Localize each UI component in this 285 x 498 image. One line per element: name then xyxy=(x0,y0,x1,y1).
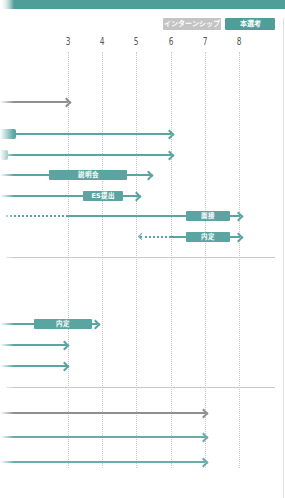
gridline-month-6 xyxy=(171,52,172,468)
legend-internship: インターンシップ xyxy=(163,18,221,30)
legend-main-selection: 本選考 xyxy=(225,18,275,30)
timeline-bar-grey xyxy=(0,412,205,414)
arrowhead-icon xyxy=(144,170,154,180)
gridline-month-3 xyxy=(68,52,69,468)
arrowhead-icon xyxy=(199,408,209,418)
arrowhead-icon xyxy=(132,191,142,201)
month-label-3: 3 xyxy=(63,35,74,48)
arrowhead-icon xyxy=(62,97,72,107)
left-edge-fade xyxy=(0,0,14,498)
gridline-month-5 xyxy=(136,52,137,468)
month-label-7: 7 xyxy=(200,35,211,48)
arrowhead-icon xyxy=(199,432,209,442)
timeline-bar-dashed xyxy=(140,236,171,238)
month-label-4: 4 xyxy=(97,35,108,48)
section-divider-2 xyxy=(6,387,275,388)
tag-es-submission: ES提出 xyxy=(83,191,123,201)
gridline-month-7 xyxy=(205,52,206,468)
right-border xyxy=(283,18,284,498)
gridline-month-8 xyxy=(239,52,240,468)
arrowhead-icon xyxy=(165,150,175,160)
gridline-month-4 xyxy=(102,52,103,468)
month-label-5: 5 xyxy=(131,35,142,48)
arrowhead-icon xyxy=(234,211,244,221)
month-label-6: 6 xyxy=(166,35,177,48)
arrowhead-icon xyxy=(165,129,175,139)
tag-offer-2: 内定 xyxy=(34,319,92,329)
top-banner xyxy=(0,0,285,9)
section-divider-1 xyxy=(6,257,275,258)
timeline-bar-teal xyxy=(0,436,205,438)
arrowhead-icon xyxy=(234,232,244,242)
timeline-bar-teal xyxy=(0,133,171,135)
timeline-bar-teal xyxy=(0,154,171,156)
timeline-bar-dashed xyxy=(6,215,68,217)
timeline-bar-teal xyxy=(0,461,205,463)
month-label-8: 8 xyxy=(234,35,245,48)
arrowhead-icon xyxy=(91,319,101,329)
tag-briefing-session: 説明会 xyxy=(49,170,127,180)
tag-interview: 面接 xyxy=(186,211,230,221)
timeline-bar-teal xyxy=(0,344,67,346)
tag-offer: 内定 xyxy=(186,232,230,242)
arrowhead-icon xyxy=(199,457,209,467)
timeline-bar-grey xyxy=(0,101,68,103)
banner-edge-fade xyxy=(0,0,14,22)
timeline-bar-teal xyxy=(0,365,67,367)
